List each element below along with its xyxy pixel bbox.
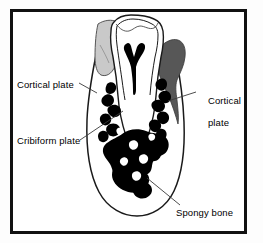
label-cribiform-plate: Cribiform plate [17,135,80,146]
label-spongy-bone: Spongy bone [176,207,233,218]
label-cortical-plate-left: Cortical plate [17,79,74,90]
label-cortical-plate-right-line1: Cortical [208,95,241,106]
label-cortical-plate-right: Cortical plate [197,84,241,139]
label-cortical-plate-right-line2: plate [208,117,229,128]
figure-root: Cortical plate Cribiform plate Cortical … [0,0,263,243]
